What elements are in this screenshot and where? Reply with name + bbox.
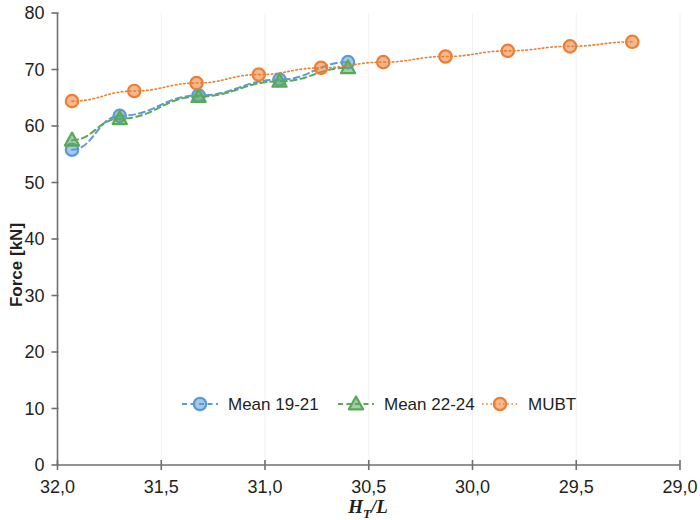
legend-label: Mean 22-24 (384, 395, 475, 414)
x-axis-tick-label: 29,0 (662, 477, 697, 497)
y-axis-tick-label: 70 (24, 60, 44, 80)
y-axis-tick-label: 10 (24, 399, 44, 419)
legend-marker-icon (494, 398, 506, 410)
y-axis-title-label: Force [kN] (7, 223, 26, 307)
y-axis-tick-label: 80 (24, 3, 44, 23)
data-point-marker (564, 40, 576, 52)
x-axis-tick-label: 31,5 (144, 477, 179, 497)
x-axis-title-rest: /L (369, 496, 388, 517)
x-axis-tick-label: 31,0 (247, 477, 282, 497)
y-axis-tick-label: 0 (34, 455, 44, 475)
chart-figure: 01020304050607080 32,031,531,030,530,029… (0, 0, 700, 520)
legend-label: Mean 19-21 (228, 395, 319, 414)
data-point-marker (253, 68, 265, 80)
data-point-marker (190, 77, 202, 89)
y-axis-tick-label: 60 (24, 116, 44, 136)
data-point-marker (626, 36, 638, 48)
x-axis-tick-label: 30,5 (351, 477, 386, 497)
data-point-marker (502, 45, 514, 57)
legend-marker-icon (194, 398, 206, 410)
x-axis-tick-label: 29,5 (559, 477, 594, 497)
y-axis-title: Force [kN] (7, 223, 26, 307)
y-axis-tick-label: 50 (24, 173, 44, 193)
x-axis-tick-label: 30,0 (455, 477, 490, 497)
x-axis-tick-label: 32,0 (40, 477, 75, 497)
chart-background (0, 0, 700, 520)
y-axis-tick-label: 30 (24, 286, 44, 306)
y-axis-tick-label: 20 (24, 342, 44, 362)
data-point-marker (439, 50, 451, 62)
data-point-marker (128, 85, 140, 97)
data-point-marker (377, 56, 389, 68)
data-point-marker (66, 95, 78, 107)
y-axis-tick-label: 40 (24, 229, 44, 249)
legend-label: MUBT (528, 395, 576, 414)
force-vs-ht-over-l-chart: 01020304050607080 32,031,531,030,530,029… (0, 0, 700, 520)
x-axis-title-base: H (347, 496, 364, 517)
data-point-marker (315, 62, 327, 74)
